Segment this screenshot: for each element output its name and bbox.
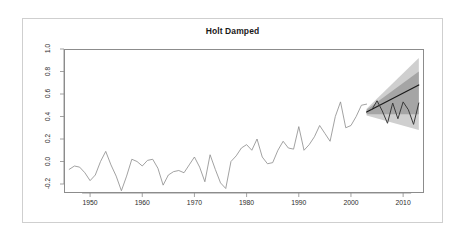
x-axis-tick-label: 1970 (179, 199, 209, 206)
y-axis-tick-label: 0.2 (44, 128, 51, 150)
prediction-interval-group (367, 58, 419, 130)
y-axis-tick-label: 0.4 (44, 105, 51, 127)
x-axis-tick-label: 1950 (75, 199, 105, 206)
x-axis-tick-label: 1990 (284, 199, 314, 206)
y-axis-tick-label: -0.2 (44, 173, 51, 195)
y-axis-tick-label: 1.0 (44, 38, 51, 60)
axis-ticks-group (60, 49, 411, 197)
figure-root: Holt Damped 1.00.80.60.40.20.0-0.2 19501… (0, 0, 465, 240)
x-axis-tick-label: 1960 (127, 199, 157, 206)
historical-data-line (69, 102, 366, 191)
x-axis-tick-label: 2010 (388, 199, 418, 206)
y-axis-tick-label: 0.6 (44, 83, 51, 105)
y-axis-tick-label: 0.0 (44, 150, 51, 172)
historical-series-line (69, 102, 366, 191)
x-axis-tick-label: 1980 (232, 199, 262, 206)
x-axis-tick-label: 2000 (336, 199, 366, 206)
y-axis-tick-label: 0.8 (44, 60, 51, 82)
